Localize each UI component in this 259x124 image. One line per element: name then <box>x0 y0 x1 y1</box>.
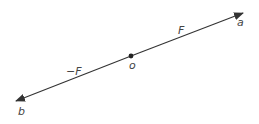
point-o-label: o <box>129 59 136 72</box>
point-b-label: b <box>18 105 25 118</box>
point-a-label: a <box>237 16 244 29</box>
vector-neg-F-line <box>16 56 131 101</box>
origin-point-dot <box>129 54 134 59</box>
vector-F-label: F <box>178 24 185 37</box>
vector-F-line <box>131 13 243 56</box>
vector-diagram: a b o F −F <box>0 0 259 124</box>
vector-neg-F-label: −F <box>66 65 82 78</box>
